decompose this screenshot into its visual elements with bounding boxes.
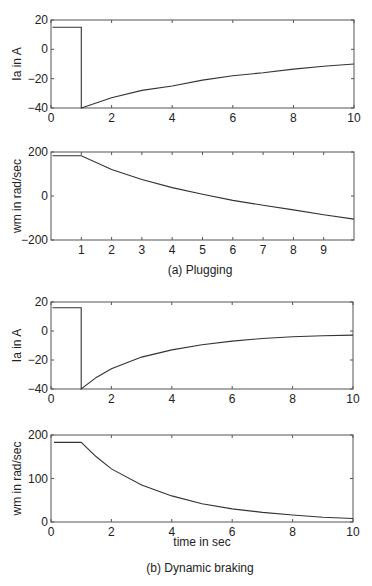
- x-tick-label: 5: [199, 243, 206, 257]
- x-tick-label: 6: [229, 111, 236, 125]
- x-tick-label: 7: [260, 243, 267, 257]
- data-line: [54, 442, 353, 518]
- data-line: [53, 308, 354, 389]
- y-tick-label: 0: [41, 189, 48, 203]
- y-axis-label: Ia in A: [10, 329, 24, 362]
- x-tick-label: 6: [229, 392, 236, 406]
- x-tick-label: 8: [290, 243, 297, 257]
- x-tick-label: 4: [169, 111, 176, 125]
- plot-frame: [51, 435, 353, 522]
- plot-frame: [51, 20, 354, 108]
- caption-plugging: (a) Plugging: [168, 263, 233, 277]
- dynamic-braking-speed-chart: 02468100100200wm in rad/sec: [10, 428, 360, 539]
- y-tick-label: 0: [41, 324, 48, 338]
- x-tick-label: 8: [289, 392, 296, 406]
- plugging-current-chart: 0246810−40−20020Ia in A: [10, 13, 361, 125]
- y-axis-label: wm in rad/sec: [10, 441, 24, 516]
- x-tick-label: 6: [229, 243, 236, 257]
- x-tick-label: 9: [320, 243, 327, 257]
- y-tick-label: 0: [41, 42, 48, 56]
- y-tick-label: −200: [21, 233, 48, 247]
- x-tick-label: 10: [346, 392, 360, 406]
- caption-dynamic-braking: (b) Dynamic braking: [146, 561, 253, 575]
- x-tick-label: 3: [139, 243, 146, 257]
- y-axis-label: wm in rad/sec: [10, 159, 24, 234]
- x-tick-label: 8: [290, 111, 297, 125]
- x-tick-label: 10: [347, 111, 361, 125]
- x-tick-label: 4: [169, 243, 176, 257]
- y-tick-label: 200: [28, 145, 48, 159]
- x-tick-label: 2: [108, 392, 115, 406]
- plot-frame: [51, 152, 354, 240]
- y-tick-label: 20: [35, 295, 49, 309]
- x-tick-label: 10: [346, 525, 360, 539]
- y-tick-label: −40: [28, 382, 49, 396]
- data-line: [53, 156, 355, 219]
- x-tick-label: 0: [48, 111, 55, 125]
- x-tick-label: 2: [108, 111, 115, 125]
- y-tick-label: 0: [41, 515, 48, 529]
- y-tick-label: 20: [35, 13, 49, 27]
- x-tick-label: 2: [108, 525, 115, 539]
- plugging-speed-chart: 123456789−2000200wm in rad/sec: [10, 145, 354, 257]
- y-tick-label: −20: [28, 72, 49, 86]
- y-tick-label: 200: [28, 428, 48, 442]
- y-tick-label: −20: [28, 353, 49, 367]
- x-tick-label: 8: [289, 525, 296, 539]
- x-tick-label: 4: [168, 392, 175, 406]
- dynamic-braking-current-chart: 0246810−40−20020Ia in A: [10, 295, 360, 406]
- y-tick-label: 100: [28, 472, 48, 486]
- y-axis-label: Ia in A: [10, 47, 24, 80]
- data-line: [53, 27, 355, 108]
- y-tick-label: −40: [28, 101, 49, 115]
- figure: 0246810−40−20020Ia in A 123456789−200020…: [0, 0, 372, 586]
- x-tick-label: 1: [78, 243, 85, 257]
- x-tick-label: 2: [108, 243, 115, 257]
- x-axis-label-time: time in sec: [173, 535, 230, 549]
- plot-frame: [51, 302, 353, 389]
- x-tick-label: 0: [48, 525, 55, 539]
- x-tick-label: 0: [48, 392, 55, 406]
